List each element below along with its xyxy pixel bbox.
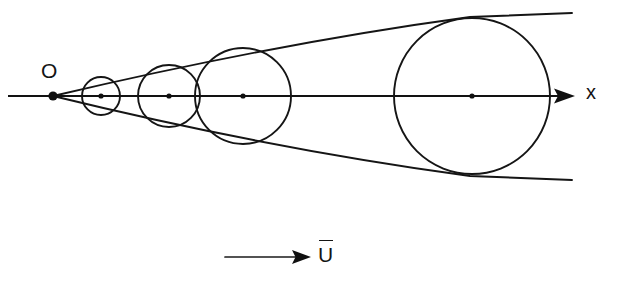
velocity-arrow-group xyxy=(225,250,311,264)
mach-cone-figure: O x U xyxy=(0,0,618,285)
center-dot-3 xyxy=(240,93,245,98)
upper-envelope-curve xyxy=(53,13,572,96)
velocity-overbar xyxy=(319,240,333,241)
figure-canvas xyxy=(0,0,618,285)
origin-label: O xyxy=(41,60,57,81)
center-dot-1 xyxy=(98,93,103,98)
center-dot-4 xyxy=(469,93,474,98)
center-dot-2 xyxy=(166,93,171,98)
velocity-label: U xyxy=(318,240,333,265)
origin-dot xyxy=(48,91,57,100)
x-axis-label: x xyxy=(586,82,596,102)
velocity-label-text: U xyxy=(318,243,333,266)
lower-envelope-curve xyxy=(53,96,572,180)
